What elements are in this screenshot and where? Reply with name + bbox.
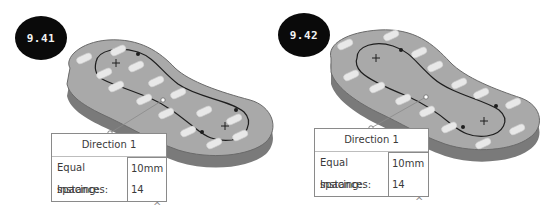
- equal-spacing-label: Equal spacing:: [315, 152, 388, 174]
- equal-spacing-row[interactable]: Equal spacing: 10mm: [315, 152, 428, 174]
- callout-title: Direction 1: [52, 134, 166, 157]
- leader-anchor: [424, 95, 428, 99]
- figure-label-badge: 9.41: [15, 16, 67, 60]
- direction-callout[interactable]: Direction 1 Equal spacing: 10mm Instance…: [51, 133, 167, 202]
- equal-spacing-label: Equal spacing:: [52, 157, 127, 179]
- instances-label: Instances:: [52, 179, 127, 201]
- figure-label-badge: 9.42: [278, 13, 330, 57]
- chevron-up-icon[interactable]: ^: [153, 201, 161, 212]
- equal-spacing-row[interactable]: Equal spacing: 10mm: [52, 157, 166, 179]
- instances-value[interactable]: 14: [388, 174, 428, 196]
- equal-spacing-value[interactable]: 10mm: [127, 157, 166, 179]
- callout-title: Direction 1: [315, 129, 428, 152]
- leader-anchor: [161, 98, 165, 102]
- instances-value[interactable]: 14: [127, 179, 166, 201]
- instances-label: Instances:: [315, 174, 388, 196]
- figure-9-42: 9.42 Direction 1 Equal spacing: 10mm Ins…: [275, 0, 550, 221]
- figure-9-41: 9.41 Direction 1 Equal spacing: 10mm Ins…: [0, 0, 275, 221]
- instances-row[interactable]: Instances: 14: [52, 179, 166, 201]
- equal-spacing-value[interactable]: 10mm: [388, 152, 428, 174]
- chevron-up-icon[interactable]: ^: [415, 196, 423, 207]
- direction-callout[interactable]: Direction 1 Equal spacing: 10mm Instance…: [314, 128, 429, 197]
- instances-row[interactable]: Instances: 14: [315, 174, 428, 196]
